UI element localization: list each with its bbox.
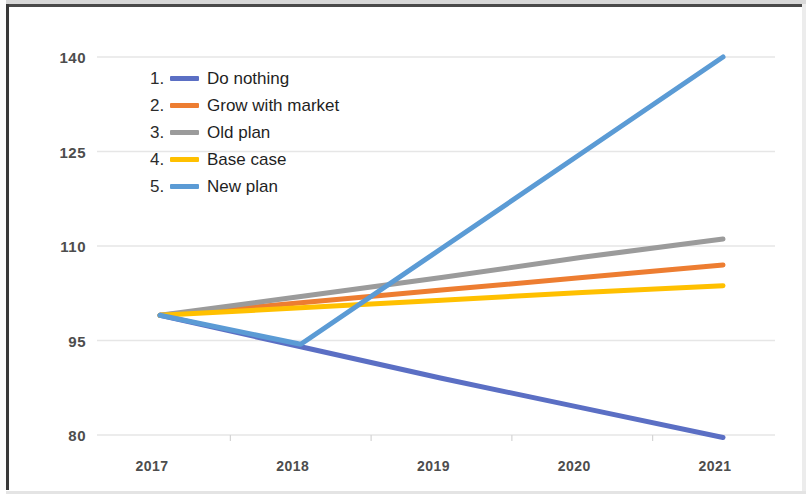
legend-item-index: 1. — [150, 69, 170, 89]
legend-color-swatch — [170, 157, 199, 162]
x-axis-tick-label: 2019 — [417, 458, 450, 474]
legend-item-label: Do nothing — [207, 69, 289, 89]
xtick-marks-group — [230, 435, 652, 441]
line-chart-plot — [0, 0, 806, 494]
chart-figure: 1401251109580 20172018201920202021 1.Do … — [0, 0, 806, 494]
legend-item[interactable]: 2.Grow with market — [150, 93, 339, 118]
legend-item-index: 2. — [150, 96, 170, 116]
legend-color-swatch — [170, 103, 199, 108]
y-axis-tick-label: 110 — [30, 238, 86, 255]
y-axis-tick-label: 80 — [30, 427, 86, 444]
legend-item-label: Base case — [207, 150, 286, 170]
y-axis-tick-label: 125 — [30, 143, 86, 160]
x-axis-tick-label: 2018 — [276, 458, 309, 474]
legend-color-swatch — [170, 130, 199, 135]
legend-item-index: 3. — [150, 123, 170, 143]
legend-color-swatch — [170, 76, 199, 81]
legend-item[interactable]: 1.Do nothing — [150, 66, 339, 91]
chart-legend: 1.Do nothing2.Grow with market3.Old plan… — [150, 66, 339, 199]
x-axis-tick-label: 2020 — [558, 458, 591, 474]
legend-item[interactable]: 4.Base case — [150, 147, 339, 172]
legend-item[interactable]: 3.Old plan — [150, 120, 339, 145]
legend-item-label: Grow with market — [207, 96, 339, 116]
legend-item-label: Old plan — [207, 123, 270, 143]
x-axis-tick-label: 2021 — [698, 458, 731, 474]
y-axis-tick-label: 95 — [30, 332, 86, 349]
legend-item-label: New plan — [207, 177, 278, 197]
legend-item[interactable]: 5.New plan — [150, 174, 339, 199]
y-axis-tick-label: 140 — [30, 49, 86, 66]
legend-color-swatch — [170, 184, 199, 189]
legend-item-index: 5. — [150, 177, 170, 197]
x-axis-tick-label: 2017 — [135, 458, 168, 474]
legend-item-index: 4. — [150, 150, 170, 170]
